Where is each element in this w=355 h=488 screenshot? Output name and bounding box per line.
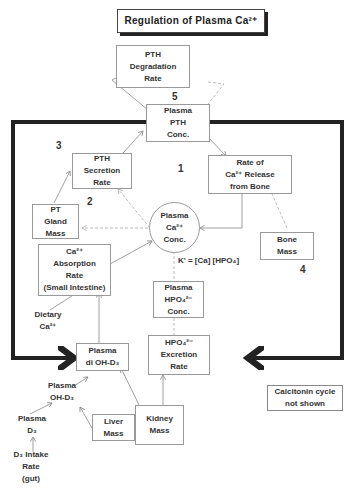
label: Ca²⁺ Release [225,169,274,181]
label: Rate [93,177,110,189]
node-plasma-ca-conc: Plasma Ca²⁺ Conc. [149,202,200,253]
node-liver-mass: Liver Mass [92,414,135,441]
label: Conc. [167,129,189,141]
node-plasma-oh-d3: Plasma OH-D₃ [44,380,80,404]
label: HPO₄²⁻ [165,294,193,306]
label: Bone [277,234,297,246]
node-plasma-pth-conc: Plasma PTH Conc. [146,104,210,142]
node-plasma-d3: Plasma D₃ [14,413,50,437]
label: Plasma [164,282,192,294]
node-hpo4-excretion-rate: HPO₄²⁻ Excretion Rate [148,335,210,375]
label: Mass [277,246,297,258]
label: D₃ Intake [8,449,54,461]
label: Ca²⁺ [166,222,183,234]
label: Mass [45,228,65,240]
label: Ca²⁺ [28,321,68,333]
label: Plasma [160,210,188,222]
label: Rate [66,270,83,282]
label: PTH [170,117,186,129]
label: (Small Intestine) [44,282,106,294]
label: Degradation [130,61,177,73]
label: D₃ [14,425,50,437]
label: Plasma [164,105,192,117]
label: PTH [145,49,161,61]
label: Excretion [161,349,197,361]
label: Plasma [88,345,116,357]
loop-number-2: 2 [87,196,93,207]
node-dietary-ca: Dietary Ca²⁺ [28,309,68,333]
node-pt-gland-mass: PT Gland Mass [32,204,79,239]
label: from Bone [230,181,270,193]
label: Conc. [163,234,185,246]
label: Kidney [146,413,173,425]
equilibrium-formula: K' = [Ca] [HPO₄] [178,256,239,265]
node-pth-secretion-rate: PTH Secretion Rate [72,153,132,189]
node-d3-intake-rate: D₃ Intake Rate (gut) [8,449,54,485]
loop-number-4: 4 [300,264,306,275]
label: Rate [144,73,161,85]
label: Liver [104,416,123,428]
label: (gut) [8,473,54,485]
label: not shown [285,398,325,410]
label: Absorption [53,258,96,270]
node-kidney-mass: Kidney Mass [135,405,184,445]
label: PT [50,204,60,216]
node-plasma-hpo4-conc: Plasma HPO₄²⁻ Conc. [153,281,204,318]
label: Conc. [167,306,189,318]
label: Rate of [236,157,263,169]
label: Plasma [44,380,80,392]
label: Rate [8,461,54,473]
label: Plasma [14,413,50,425]
node-ca-release-from-bone: Rate of Ca²⁺ Release from Bone [208,155,292,194]
node-ca-absorption-rate: Ca²⁺ Absorption Rate (Small Intestine) [38,244,111,296]
label: Calcitonin cycle [275,386,336,398]
label: Mass [103,428,123,440]
label: Mass [149,425,169,437]
node-pth-degradation-rate: PTH Degradation Rate [116,45,190,88]
label: Dietary [28,309,68,321]
label: HPO₄²⁻ [165,337,193,349]
loop-number-5: 5 [172,91,178,102]
label: Secretion [84,165,120,177]
label: di OH-D₃ [86,357,119,369]
node-bone-mass: Bone Mass [260,232,314,260]
node-plasma-di-oh-d3: Plasma di OH-D₃ [76,343,129,371]
label: Gland [44,216,67,228]
label: Rate [170,361,187,373]
label: Ca²⁺ [66,246,83,258]
diagram-title: Regulation of Plasma Ca²⁺ [117,9,265,33]
loop-number-1: 1 [178,163,184,174]
label: PTH [94,153,110,165]
loop-number-3: 3 [56,140,62,151]
calcitonin-note: Calcitonin cycle not shown [267,385,343,411]
label: OH-D₃ [44,392,80,404]
